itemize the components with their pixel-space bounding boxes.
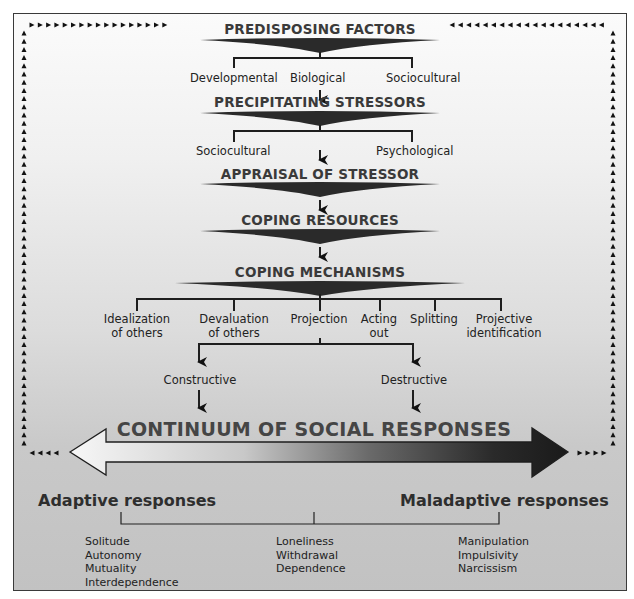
stage-title-appraisal: APPRAISAL OF STRESSOR [221, 166, 419, 182]
stage-title-predisposing: PREDISPOSING FACTORS [224, 21, 416, 37]
factor-sociocultural: Sociocultural [386, 71, 460, 85]
mechanism-projective-identification: Projectiveidentification [466, 312, 541, 340]
mechanism-projection: Projection [291, 312, 348, 326]
middle-list: Loneliness Withdrawal Dependence [276, 535, 346, 576]
stressor-psychological: Psychological [376, 144, 453, 158]
funnel-resources [200, 229, 440, 244]
mechanism-devaluation: Devaluationof others [199, 312, 268, 340]
factor-developmental: Developmental [190, 71, 278, 85]
outcome-destructive: Destructive [381, 373, 447, 387]
response-bracket [121, 512, 499, 524]
funnel-precipitating [200, 111, 440, 126]
mechanism-idealization: Idealizationof others [104, 312, 170, 340]
maladaptive-list: Manipulation Impulsivity Narcissism [458, 535, 529, 576]
funnel-mechanisms [175, 281, 465, 296]
stage-title-mechanisms: COPING MECHANISMS [235, 264, 405, 280]
factor-biological: Biological [290, 71, 345, 85]
adaptive-list: Solitude Autonomy Mutuality Interdepende… [85, 535, 179, 589]
adaptive-responses-label: Adaptive responses [38, 491, 216, 510]
stage-title-precipitating: PRECIPITATING STRESSORS [214, 94, 426, 110]
outcome-constructive: Constructive [164, 373, 237, 387]
stage-title-resources: COPING RESOURCES [241, 212, 399, 228]
maladaptive-responses-label: Maladaptive responses [400, 491, 609, 510]
funnel-appraisal [200, 182, 440, 197]
mechanism-acting-out: Actingout [361, 312, 397, 340]
funnel-predisposing [200, 38, 440, 53]
continuum-title: CONTINUUM OF SOCIAL RESPONSES [117, 418, 512, 440]
stressor-sociocultural: Sociocultural [196, 144, 270, 158]
mechanism-splitting: Splitting [410, 312, 458, 326]
